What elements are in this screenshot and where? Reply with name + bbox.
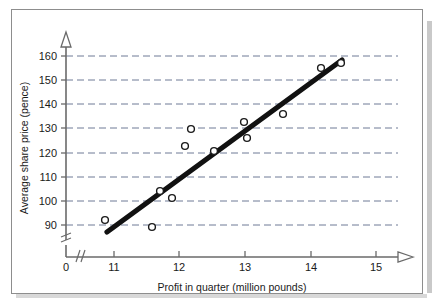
data-point	[169, 195, 176, 202]
data-point	[241, 119, 248, 126]
data-point	[244, 135, 251, 142]
y-tick-label-110: 110	[39, 171, 57, 183]
figure-root: 160 150 140 130 120 110 100 90	[0, 0, 439, 305]
y-tick-label-160: 160	[39, 50, 57, 62]
x-tick-label-13: 13	[239, 261, 251, 273]
origin-label-zero: 0	[63, 261, 69, 273]
data-point	[182, 143, 189, 150]
y-axis: 160 150 140 130 120 110 100 90	[39, 32, 71, 242]
data-point	[157, 188, 164, 195]
y-tick-label-140: 140	[39, 98, 57, 110]
x-tick-label-15: 15	[370, 261, 382, 273]
data-point	[338, 60, 345, 67]
y-tick-label-130: 130	[39, 122, 57, 134]
x-tick-marks	[114, 251, 376, 257]
x-tick-label-12: 12	[173, 261, 185, 273]
y-tick-label-120: 120	[39, 147, 57, 159]
y-axis-arrow-icon	[61, 32, 71, 47]
data-point	[102, 217, 109, 224]
trend-line	[107, 60, 342, 232]
data-point	[188, 126, 195, 133]
y-tick-label-100: 100	[39, 195, 57, 207]
data-point	[149, 224, 156, 231]
y-tick-label-150: 150	[39, 74, 57, 86]
y-axis-title: Average share price (pence)	[18, 82, 30, 214]
x-axis: 11 12 13 14 15 0	[63, 245, 413, 273]
x-tick-label-14: 14	[305, 261, 317, 273]
y-tick-label-90: 90	[45, 219, 57, 231]
data-point	[211, 148, 218, 155]
x-tick-label-11: 11	[108, 261, 119, 273]
data-point	[318, 65, 325, 72]
data-point	[280, 111, 287, 118]
scatter-plot: 160 150 140 130 120 110 100 90	[0, 0, 439, 305]
x-axis-break-icon	[76, 250, 85, 262]
x-axis-arrow-icon	[398, 252, 413, 262]
line-of-best-fit	[107, 60, 342, 232]
x-axis-title: Profit in quarter (million pounds)	[158, 281, 307, 293]
